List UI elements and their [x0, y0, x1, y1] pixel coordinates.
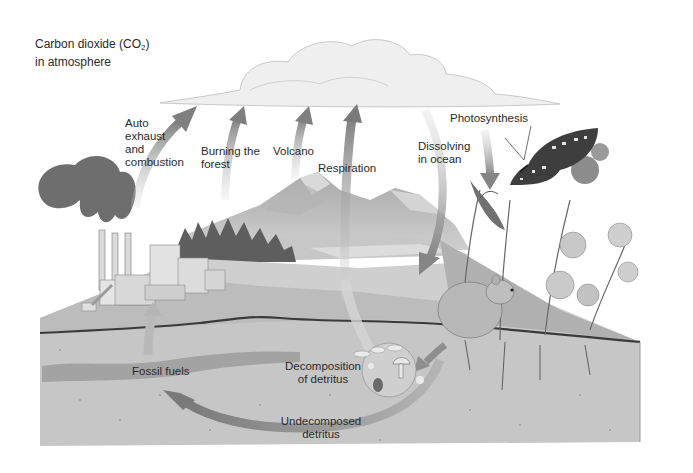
label-line: forest	[201, 158, 230, 170]
label-line: of detritus	[298, 373, 349, 385]
label-volcano: Volcano	[273, 145, 314, 158]
carbon-cycle-scene	[0, 0, 693, 473]
label-dissolving-ocean: Dissolving in ocean	[418, 140, 470, 166]
label-line: Dissolving	[418, 140, 470, 152]
title-text: Carbon dioxide (CO	[35, 37, 141, 51]
label-undecomposed: Undecomposed detritus	[280, 415, 362, 441]
label-line: combustion	[125, 156, 184, 168]
label-decomposition: Decomposition of detritus	[282, 360, 364, 386]
label-photosynthesis: Photosynthesis	[450, 112, 528, 125]
atmosphere-title: Carbon dioxide (CO2) in atmosphere	[35, 37, 150, 69]
label-respiration: Respiration	[318, 162, 376, 175]
beetle-icon	[373, 378, 383, 392]
label-line: Burning the	[201, 145, 260, 157]
label-line: detritus	[302, 428, 340, 440]
title-line2: in atmosphere	[35, 55, 111, 69]
label-line: Decomposition	[285, 360, 361, 372]
label-auto-exhaust: Auto exhaust and combustion	[125, 117, 184, 169]
cloud	[160, 40, 560, 107]
label-line: Undecomposed	[281, 415, 362, 427]
label-line: Auto	[125, 117, 149, 129]
label-fossil-fuels: Fossil fuels	[132, 365, 190, 378]
label-line: and	[125, 143, 144, 155]
label-line: exhaust	[125, 130, 165, 142]
title-suffix: )	[146, 37, 150, 51]
label-burning-forest: Burning the forest	[201, 145, 260, 171]
label-line: in ocean	[418, 153, 461, 165]
